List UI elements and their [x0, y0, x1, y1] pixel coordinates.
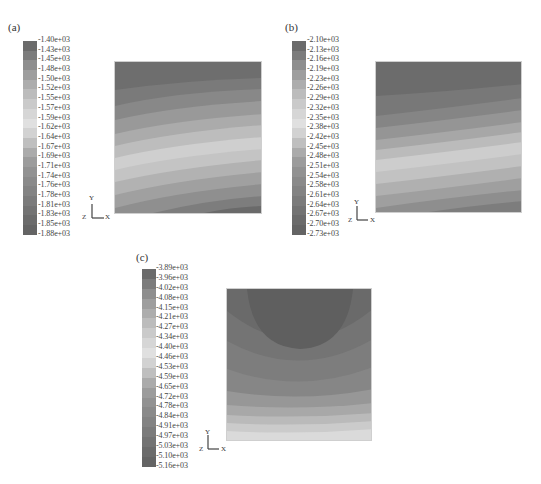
colorbar-tick-label: -2.51e+03 — [307, 161, 339, 171]
colorbar-band — [292, 177, 306, 187]
colorbar-band — [142, 388, 156, 398]
colorbar-band — [142, 318, 156, 328]
colorbar-tick-label: -2.38e+03 — [307, 122, 339, 132]
colorbar-tick-label: -2.73e+03 — [307, 229, 339, 239]
colorbar-band — [23, 225, 37, 235]
colorbar-band — [23, 157, 37, 167]
colorbar-band — [142, 427, 156, 437]
colorbar-tick-label: -2.64e+03 — [307, 200, 339, 210]
colorbar-tick-label: -1.50e+03 — [38, 74, 70, 84]
colorbar-tick-label: -2.61e+03 — [307, 190, 339, 200]
colorbar-tick-label: -4.65e+03 — [156, 382, 188, 392]
colorbar-band — [23, 41, 37, 51]
colorbar-labels: -3.89e+03-3.96e+03-4.02e+03-4.08e+03-4.1… — [156, 263, 188, 471]
colorbar-band — [142, 447, 156, 457]
colorbar-tick-label: -1.59e+03 — [38, 113, 70, 123]
colorbar-tick-label: -2.42e+03 — [307, 132, 339, 142]
colorbar-band — [23, 177, 37, 187]
colorbar-tick-label: -2.23e+03 — [307, 74, 339, 84]
colorbar-band — [292, 167, 306, 177]
colorbar-tick-label: -1.43e+03 — [38, 45, 70, 55]
colorbar-band — [292, 225, 306, 235]
panel-b-label: (b) — [285, 21, 298, 33]
colorbar-tick-label: -1.88e+03 — [38, 229, 70, 239]
colorbar-band — [142, 378, 156, 388]
triad-b-y: Y — [354, 198, 359, 206]
colorbar-band — [142, 328, 156, 338]
colorbar-tick-label: -4.27e+03 — [156, 322, 188, 332]
colorbar-band — [292, 138, 306, 148]
colorbar-band — [292, 128, 306, 138]
colorbar-band — [23, 148, 37, 158]
colorbar-tick-label: -2.29e+03 — [307, 93, 339, 103]
colorbar-tick-label: -1.45e+03 — [38, 54, 70, 64]
colorbar-band — [292, 186, 306, 196]
colorbar-band — [142, 407, 156, 417]
colorbar-tick-label: -1.85e+03 — [38, 219, 70, 229]
colorbar-tick-label: -1.78e+03 — [38, 190, 70, 200]
colorbar-tick-label: -3.96e+03 — [156, 273, 188, 283]
triad-a-z: Z — [82, 213, 86, 221]
colorbar-tick-label: -1.52e+03 — [38, 83, 70, 93]
colorbar-bar — [292, 41, 306, 235]
colorbar-band — [142, 417, 156, 427]
colorbar-band — [23, 89, 37, 99]
panel-a-axis-triad — [82, 196, 112, 226]
colorbar-tick-label: -4.21e+03 — [156, 312, 188, 322]
colorbar-tick-label: -2.48e+03 — [307, 151, 339, 161]
colorbar-tick-label: -1.64e+03 — [38, 132, 70, 142]
panel-a-contour-plot — [114, 61, 262, 214]
colorbar-tick-label: -1.83e+03 — [38, 209, 70, 219]
colorbar-tick-label: -2.16e+03 — [307, 54, 339, 64]
colorbar-band — [292, 215, 306, 225]
colorbar-tick-label: -1.69e+03 — [38, 151, 70, 161]
colorbar-band — [142, 269, 156, 279]
colorbar-band — [292, 206, 306, 216]
colorbar-tick-label: -4.40e+03 — [156, 342, 188, 352]
colorbar-tick-label: -2.13e+03 — [307, 45, 339, 55]
colorbar-labels: -1.40e+03-1.43e+03-1.45e+03-1.48e+03-1.5… — [38, 35, 70, 238]
colorbar-band — [23, 109, 37, 119]
colorbar-band — [142, 457, 156, 467]
colorbar-tick-label: -5.03e+03 — [156, 441, 188, 451]
triad-c-z: Z — [199, 445, 203, 453]
colorbar-band — [23, 80, 37, 90]
colorbar-tick-label: -2.70e+03 — [307, 219, 339, 229]
colorbar-band — [23, 70, 37, 80]
colorbar-tick-label: -1.74e+03 — [38, 171, 70, 181]
colorbar-tick-label: -1.67e+03 — [38, 142, 70, 152]
triad-c-x: X — [221, 445, 226, 453]
colorbar-tick-label: -4.02e+03 — [156, 283, 188, 293]
colorbar-band — [292, 70, 306, 80]
colorbar-band — [23, 60, 37, 70]
colorbar-band — [23, 167, 37, 177]
contour-c — [227, 289, 372, 441]
colorbar-band — [23, 138, 37, 148]
colorbar-tick-label: -2.32e+03 — [307, 103, 339, 113]
colorbar-band — [23, 186, 37, 196]
triad-b-x: X — [370, 216, 375, 224]
colorbar-tick-label: -1.76e+03 — [38, 180, 70, 190]
colorbar-band — [142, 279, 156, 289]
colorbar-band — [292, 60, 306, 70]
colorbar-tick-label: -1.71e+03 — [38, 161, 70, 171]
colorbar-band — [292, 80, 306, 90]
colorbar-tick-label: -3.89e+03 — [156, 263, 188, 273]
colorbar-tick-label: -2.45e+03 — [307, 142, 339, 152]
colorbar-band — [142, 358, 156, 368]
colorbar-band — [292, 99, 306, 109]
colorbar-band — [23, 196, 37, 206]
colorbar-band — [292, 41, 306, 51]
panel-b-axis-triad — [347, 200, 377, 230]
colorbar-tick-label: -2.54e+03 — [307, 171, 339, 181]
colorbar-band — [142, 348, 156, 358]
colorbar-band — [292, 148, 306, 158]
colorbar-band — [292, 157, 306, 167]
colorbar-band — [292, 51, 306, 61]
colorbar-tick-label: -2.10e+03 — [307, 35, 339, 45]
colorbar-labels: -2.10e+03-2.13e+03-2.16e+03-2.19e+03-2.2… — [307, 35, 339, 238]
colorbar-band — [23, 119, 37, 129]
colorbar-tick-label: -4.46e+03 — [156, 352, 188, 362]
colorbar-band — [142, 299, 156, 309]
colorbar-tick-label: -4.78e+03 — [156, 401, 188, 411]
